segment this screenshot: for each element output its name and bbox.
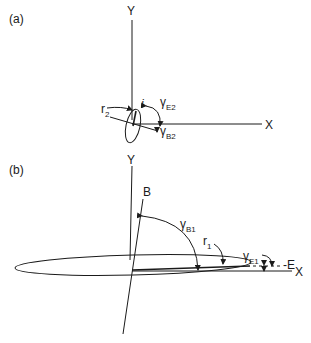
diagram-canvas: (a) Y X r2 i γE2 γB2 (b) Y B	[0, 0, 311, 343]
e-label: -E	[283, 258, 295, 272]
r1-pointer	[214, 244, 223, 264]
gamma-e2-label: γE2	[160, 95, 176, 112]
r1-label: r1	[203, 234, 212, 251]
gamma-e2-arc	[146, 106, 160, 126]
panel-b-label: (b)	[9, 163, 24, 177]
i-label: i	[141, 97, 144, 111]
panel-a-label: (a)	[9, 12, 24, 26]
r2-label: r2	[101, 102, 110, 119]
gamma-e1-pointer	[262, 255, 272, 266]
panel-a: (a) Y X r2 i γE2 γB2	[9, 4, 273, 144]
b-field-line	[123, 199, 143, 334]
r2-pointer	[107, 107, 132, 110]
y-axis-b	[130, 166, 132, 260]
x-axis-label-b: X	[295, 265, 303, 279]
gamma-e1-label: γE1	[243, 249, 259, 266]
b-label: B	[143, 185, 151, 199]
gamma-b2-label: γB2	[160, 124, 176, 141]
x-axis-label-a: X	[265, 118, 273, 132]
y-axis-label-a: Y	[127, 4, 135, 18]
panel-b: (b) Y B X γB1 r1 -E γE1	[9, 153, 303, 334]
y-axis-label-b: Y	[127, 153, 135, 167]
